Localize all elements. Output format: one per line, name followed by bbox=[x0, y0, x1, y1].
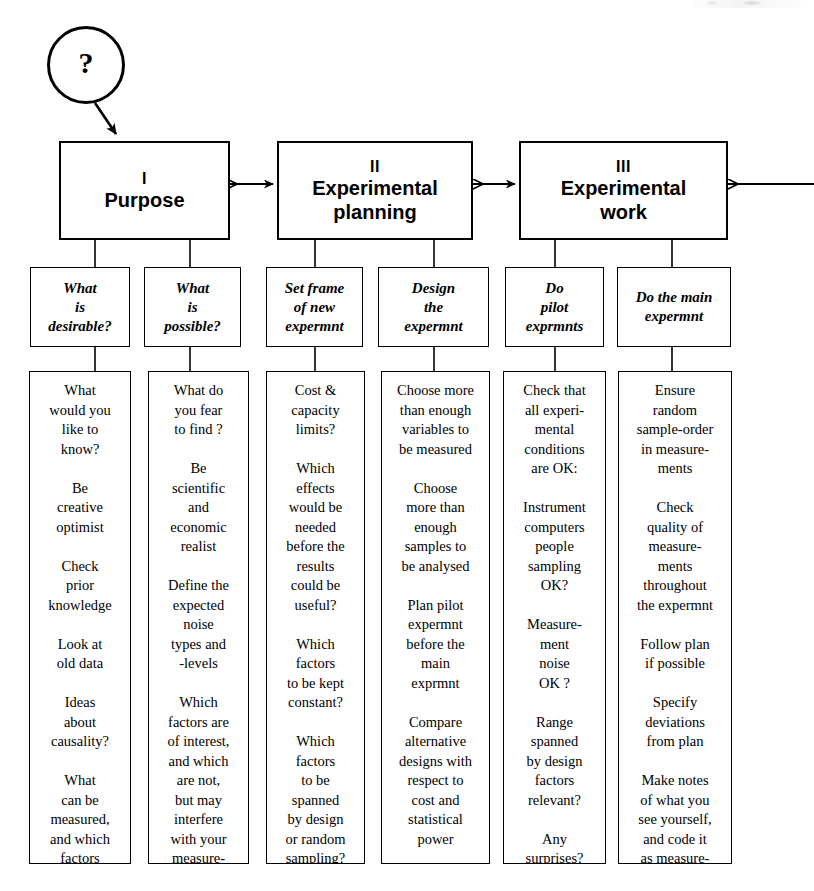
task-box-do-the-main-expermnt[interactable]: Do the main expermnt bbox=[617, 267, 731, 347]
phase-box-experimental-planning[interactable]: II Experimental planning bbox=[277, 141, 473, 240]
detail-box-what-is-possible[interactable]: What do you fear to find ? Be scientific… bbox=[148, 371, 249, 864]
detail-box-what-is-desirable[interactable]: What would you like to know? Be creative… bbox=[29, 371, 131, 864]
scan-artifact bbox=[690, 0, 810, 8]
phase-title: Purpose bbox=[104, 188, 184, 212]
task-box-what-is-desirable[interactable]: What is desirable? bbox=[30, 267, 130, 347]
detail-box-do-pilot-exprmnts[interactable]: Check that all experi- mental conditions… bbox=[503, 371, 606, 864]
flowchart-canvas: ? I Purpose II Experimental planning III… bbox=[0, 0, 814, 891]
detail-box-design-the-expermnt[interactable]: Choose more than enough variables to be … bbox=[381, 371, 490, 864]
start-node[interactable]: ? bbox=[47, 26, 125, 104]
task-box-set-frame-of-new-expermnt[interactable]: Set frame of new expermnt bbox=[266, 267, 363, 347]
phase-numeral: I bbox=[142, 169, 147, 188]
detail-box-do-the-main-expermnt[interactable]: Ensure random sample-order in measure- m… bbox=[618, 371, 732, 864]
phase-numeral: II bbox=[370, 157, 380, 176]
wire-start-to-purpose bbox=[95, 103, 116, 134]
task-box-design-the-expermnt[interactable]: Design the expermnt bbox=[378, 267, 489, 347]
phase-title: Experimental work bbox=[561, 176, 687, 224]
phase-box-purpose[interactable]: I Purpose bbox=[59, 141, 230, 240]
task-box-what-is-possible[interactable]: What is possible? bbox=[144, 267, 241, 347]
task-box-do-pilot-exprmnts[interactable]: Do pilot exprmnts bbox=[505, 267, 604, 347]
phase-title: Experimental planning bbox=[312, 176, 438, 224]
start-node-label: ? bbox=[79, 48, 94, 78]
phase-numeral: III bbox=[616, 157, 631, 176]
detail-box-set-frame-of-new-expermnt[interactable]: Cost & capacity limits? Which effects wo… bbox=[266, 371, 365, 864]
phase-box-experimental-work[interactable]: III Experimental work bbox=[519, 141, 728, 240]
